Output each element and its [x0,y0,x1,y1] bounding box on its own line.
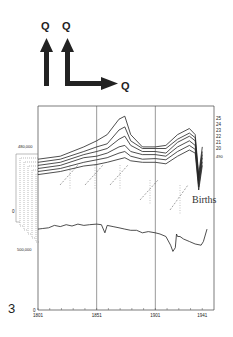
x-tick-label-1901: 1901 [150,313,161,318]
chart-frame [38,106,214,310]
figure-number: 3 [8,301,15,316]
arrow-label-q3: Q [121,80,130,92]
series-line-22 [38,141,202,184]
offset-axis-label-0: 0 [12,209,15,214]
series-label-24: 24 [216,122,222,127]
up-right-corner-arrow-icon [61,38,118,90]
births-annotation: Births [192,194,217,205]
x-tick-label-1851: 1851 [92,313,103,318]
arrow-label-q1: Q [41,20,50,32]
offset-axis-3 [28,166,38,234]
offset-axis-4 [32,170,38,238]
series-line-births [38,224,207,251]
offset-axes [16,154,40,242]
series-label-22: 22 [216,134,222,139]
up-arrow-icon [40,38,53,86]
series-label-23: 23 [216,128,222,133]
series-label-21: 21 [216,140,222,145]
cohort-arrow-4 [170,185,188,210]
offset-axis-0 [16,154,38,222]
offset-axis-label-480000: 480,000 [18,144,33,149]
x-tick-label-1801: 1801 [33,313,44,318]
series-label-25: 25 [216,116,222,121]
arrow-label-q2: Q [62,20,71,32]
cohort-arrow-2 [110,165,128,185]
offset-axis-1 [20,158,38,226]
x-tick-label-1941: 1941 [197,313,208,318]
cohort-arrows [60,165,188,214]
y-tick-label-500000: 500,000 [17,247,32,252]
series-lines [38,116,207,251]
series-label-490: 490 [216,154,223,159]
figure: Q Q Q 252423222120490 1801 1851 1901 194… [0,0,233,337]
series-label-20: 20 [216,146,222,151]
cohort-arrow-1 [85,165,103,185]
series-labels: 252423222120490 [216,116,223,159]
